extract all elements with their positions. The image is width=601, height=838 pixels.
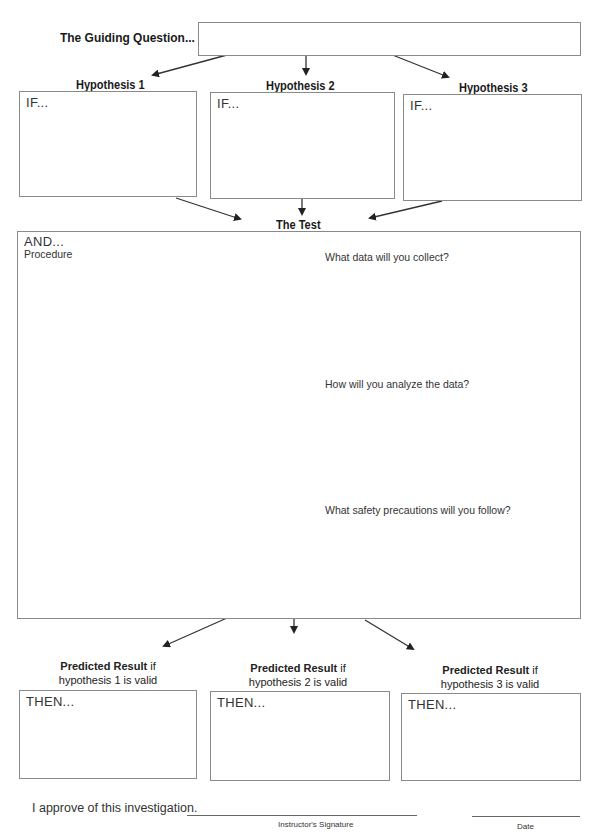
predicted-result-3-lead: THEN... bbox=[408, 697, 456, 712]
signature-line[interactable] bbox=[187, 815, 417, 816]
guiding-question-field[interactable] bbox=[198, 22, 581, 56]
test-field[interactable]: AND... Procedure What data will you coll… bbox=[17, 231, 581, 619]
date-caption: Date bbox=[517, 822, 534, 831]
test-lead: AND... bbox=[24, 234, 64, 249]
hypothesis-1-field[interactable]: IF... bbox=[19, 91, 197, 197]
approval-statement: I approve of this investigation. bbox=[32, 801, 197, 815]
predicted-result-1-lead: THEN... bbox=[26, 694, 74, 709]
predicted-result-1-label: Predicted Result if hypothesis 1 is vali… bbox=[58, 659, 158, 687]
predicted-result-2-lead: THEN... bbox=[217, 695, 265, 710]
date-line[interactable] bbox=[472, 816, 580, 817]
hypothesis-1-lead: IF... bbox=[26, 95, 48, 110]
hypothesis-3-lead: IF... bbox=[410, 98, 432, 113]
hypothesis-2-label: Hypothesis 2 bbox=[266, 79, 335, 93]
test-label: The Test bbox=[276, 218, 321, 232]
predicted-result-3-label: Predicted Result if hypothesis 3 is vali… bbox=[440, 663, 540, 691]
guiding-question-label: The Guiding Question... bbox=[60, 30, 195, 45]
procedure-label: Procedure bbox=[24, 248, 72, 260]
signature-caption: Instructor's Signature bbox=[278, 820, 353, 829]
hypothesis-3-field[interactable]: IF... bbox=[403, 94, 582, 201]
data-collect-question: What data will you collect? bbox=[325, 251, 449, 263]
predicted-result-3-field[interactable]: THEN... bbox=[401, 693, 581, 781]
hypothesis-3-label: Hypothesis 3 bbox=[459, 81, 528, 95]
hypothesis-2-field[interactable]: IF... bbox=[210, 92, 395, 199]
hypothesis-1-label: Hypothesis 1 bbox=[76, 78, 145, 92]
data-analyze-question: How will you analyze the data? bbox=[325, 378, 469, 390]
predicted-result-2-field[interactable]: THEN... bbox=[210, 691, 390, 781]
predicted-result-1-field[interactable]: THEN... bbox=[19, 690, 197, 779]
predicted-result-2-label: Predicted Result if hypothesis 2 is vali… bbox=[248, 661, 348, 689]
safety-question: What safety precautions will you follow? bbox=[325, 504, 511, 516]
hypothesis-2-lead: IF... bbox=[217, 96, 239, 111]
